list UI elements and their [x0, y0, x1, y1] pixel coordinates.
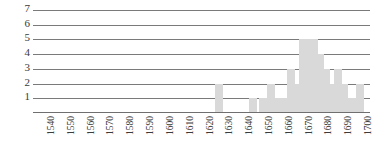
- bar: [267, 84, 275, 113]
- x-tick-label: 1650: [265, 116, 275, 135]
- y-tick-label: 6: [25, 18, 31, 29]
- x-tick-label: 1670: [305, 116, 315, 135]
- x-tick-label: 1630: [225, 116, 235, 135]
- y-tick-label: 2: [25, 77, 31, 88]
- x-tick-label: 1690: [344, 116, 354, 135]
- x-tick-label: 1600: [166, 116, 176, 135]
- y-tick-label: 4: [25, 47, 31, 58]
- x-axis-line: [33, 112, 370, 113]
- plot-area: 1234567: [33, 10, 370, 113]
- x-tick-label: 1700: [364, 116, 374, 135]
- y-tick-label: 3: [25, 62, 31, 73]
- x-tick-label: 1680: [324, 116, 334, 135]
- gridline-y-6: 6: [33, 25, 370, 26]
- x-tick-label: 1660: [285, 116, 295, 135]
- bar: [249, 98, 257, 113]
- x-tick-label: 1550: [67, 116, 77, 135]
- bar: [340, 84, 348, 113]
- x-tick-label: 1610: [186, 116, 196, 135]
- x-tick-label: 1540: [47, 116, 57, 135]
- x-tick-label: 1590: [146, 116, 156, 135]
- y-tick-label: 1: [25, 91, 31, 102]
- bar: [356, 84, 364, 113]
- gridline-y-5: 5: [33, 39, 370, 40]
- bar: [259, 98, 267, 113]
- x-tick-label: 1560: [87, 116, 97, 135]
- histogram-chart: 1234567 15401550156015701580159016001610…: [0, 0, 375, 149]
- x-tick-label: 1640: [245, 116, 255, 135]
- x-axis-tick-labels: 1540155015601570158015901600161016201630…: [33, 116, 370, 149]
- bar: [215, 84, 223, 113]
- y-tick-label: 7: [25, 3, 31, 14]
- gridline-y-7: 7: [33, 10, 370, 11]
- x-tick-label: 1570: [106, 116, 116, 135]
- x-tick-label: 1580: [126, 116, 136, 135]
- y-tick-label: 5: [25, 33, 31, 44]
- x-tick-label: 1620: [206, 116, 216, 135]
- bar: [348, 98, 356, 113]
